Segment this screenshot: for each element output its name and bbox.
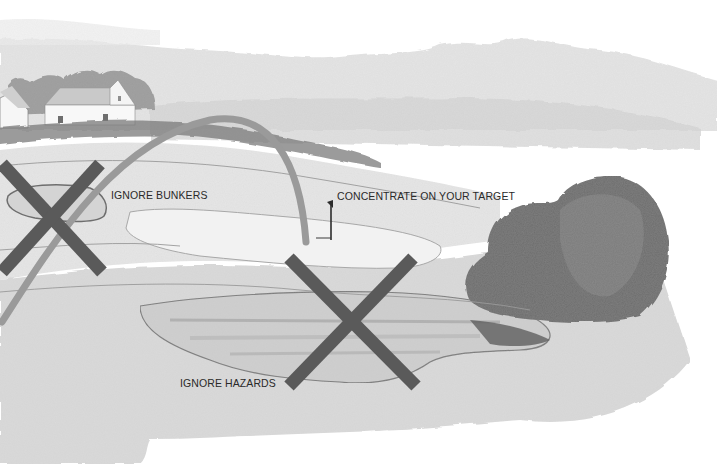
watercolor-scene	[0, 0, 717, 464]
label-concentrate-target: CONCENTRATE ON YOUR TARGET	[337, 191, 515, 202]
label-ignore-hazards: IGNORE HAZARDS	[180, 378, 276, 389]
label-ignore-bunkers: IGNORE BUNKERS	[111, 190, 208, 201]
golf-illustration: IGNORE BUNKERS CONCENTRATE ON YOUR TARGE…	[0, 0, 717, 464]
